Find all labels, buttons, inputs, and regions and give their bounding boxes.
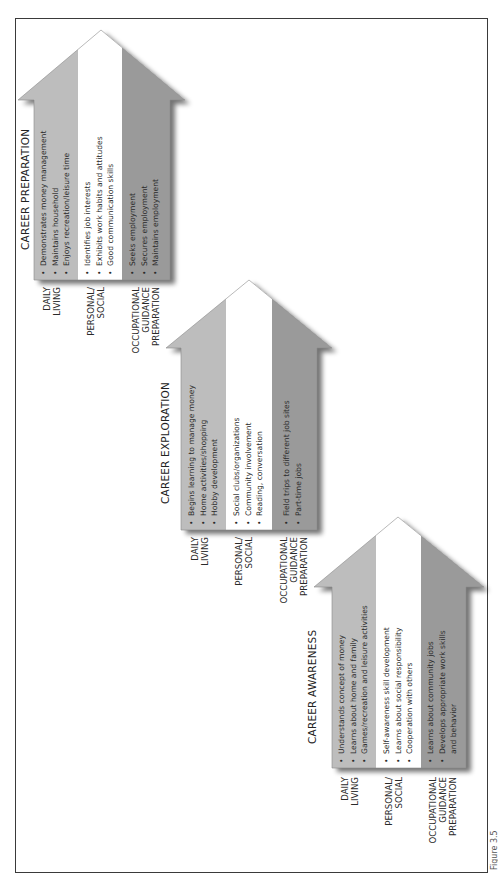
awareness-personal-social-list: Self-awareness skill development Learns …	[381, 627, 416, 763]
preparation-personal-social-list: Identifies job interests Exhibits work h…	[82, 136, 117, 275]
exploration-personal-social-list: Social clubs/organizations Community inv…	[231, 417, 266, 525]
row-label-occupational: OCCUPATIONAL GUIDANCE PREPARATION	[279, 537, 309, 632]
row-label-occupational: OCCUPATIONAL GUIDANCE PREPARATION	[131, 287, 161, 382]
preparation-occupational-list: Seeks employment Secures employment Main…	[127, 179, 162, 275]
list-item: Begins learning to manage money	[186, 385, 198, 525]
list-item: Hobby development	[209, 385, 221, 525]
list-item: Social clubs/organizations	[231, 417, 243, 525]
list-item: Demonstrates money management	[38, 131, 50, 275]
row-label-daily-living: DAILY LIVING	[42, 287, 62, 382]
list-item: Games/recreation and leisure activities	[359, 605, 371, 763]
figure-caption: Figure 3.5	[490, 830, 498, 870]
list-item: Home activities/shopping	[198, 385, 210, 525]
list-item: Reading, conversation	[254, 417, 266, 525]
list-item: Good communication skills	[105, 136, 117, 275]
row-label-daily-living: DAILY LIVING	[340, 777, 360, 872]
career-development-diagram: CAREER AWARENESS CAREER EXPLORATION CARE…	[0, 0, 498, 880]
row-label-personal-social: PERSONAL/ SOCIAL	[234, 537, 254, 632]
list-item: Secures employment	[139, 179, 151, 275]
list-item: Field trips to different job sites	[281, 400, 293, 525]
list-item: Identifies job interests	[82, 136, 94, 275]
list-item: Learns about social responsibility	[393, 627, 405, 763]
list-item: Enjoys recreation/leisure time	[61, 131, 73, 275]
row-label-personal-social: PERSONAL/ SOCIAL	[384, 777, 404, 872]
row-label-daily-living: DAILY LIVING	[190, 537, 210, 632]
list-item: Maintains employment	[150, 179, 162, 275]
awareness-daily-living-list: Understands concept of money Learns abou…	[336, 605, 371, 763]
exploration-daily-living-list: Begins learning to manage money Home act…	[186, 385, 221, 525]
figure-page: CAREER AWARENESS CAREER EXPLORATION CARE…	[0, 0, 498, 880]
list-item: Learns about home and family	[348, 605, 360, 763]
preparation-daily-living-list: Demonstrates money management Maintains …	[38, 131, 73, 275]
list-item: Cooperation with others	[404, 627, 416, 763]
exploration-occupational-list: Field trips to different job sites Part-…	[281, 400, 304, 525]
list-item: Maintains household	[50, 131, 62, 275]
stage-title-career-awareness: CAREER AWARENESS	[306, 630, 318, 744]
stage-title-career-preparation: CAREER PREPARATION	[19, 129, 31, 250]
stage-title-career-exploration: CAREER EXPLORATION	[159, 382, 171, 504]
awareness-occupational-list: Learns about community jobs Develops app…	[425, 619, 460, 763]
list-item: Exhibits work habits and attitudes	[94, 136, 106, 275]
list-item: Community involvement	[243, 417, 255, 525]
list-item: Learns about community jobs	[425, 619, 437, 763]
list-item: Self-awareness skill development	[381, 627, 393, 763]
row-label-personal-social: PERSONAL/ SOCIAL	[86, 287, 106, 382]
row-label-occupational: OCCUPATIONAL GUIDANCE PREPARATION	[428, 777, 458, 872]
list-item: Seeks employment	[127, 179, 139, 275]
list-item: Develops appropriate work skills and beh…	[437, 619, 460, 763]
list-item: Understands concept of money	[336, 605, 348, 763]
list-item: Part-time jobs	[293, 400, 305, 525]
